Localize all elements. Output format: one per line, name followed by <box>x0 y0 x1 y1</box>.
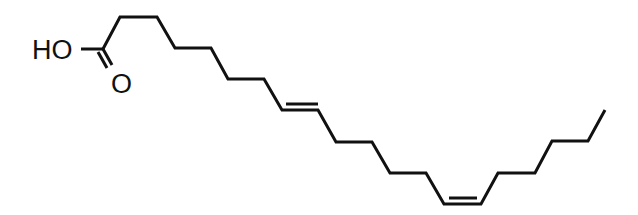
hydroxyl-label: HO <box>32 35 73 65</box>
carbon-chain <box>103 17 605 204</box>
carbonyl-oxygen-label: O <box>111 69 132 99</box>
chemical-structure: HO O <box>0 0 638 215</box>
